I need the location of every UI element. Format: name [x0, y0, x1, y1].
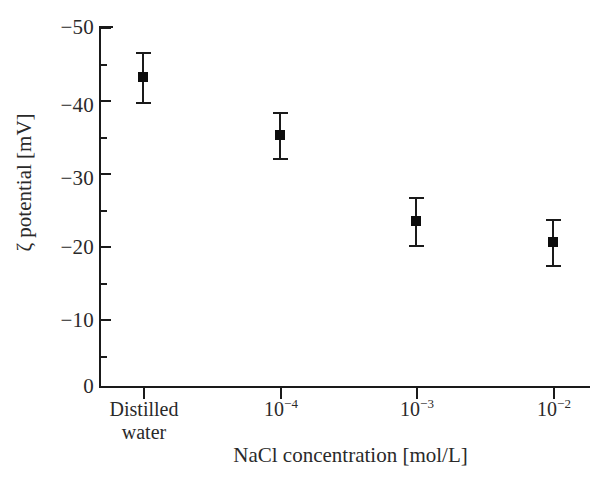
- error-bar-cap-lower: [136, 102, 151, 104]
- y-tick-label-zero: 0: [36, 376, 94, 397]
- error-bar-cap-lower: [546, 265, 561, 267]
- y-tick-major-minus30: [100, 173, 111, 175]
- x-tick-label-base: 10: [400, 398, 420, 420]
- error-bar-cap-upper: [136, 52, 151, 54]
- x-tick-label-exponent: −2: [557, 396, 571, 411]
- y-tick-major-minus40: [100, 100, 111, 102]
- data-marker: [138, 72, 148, 82]
- y-axis-line: [99, 27, 101, 388]
- y-tick-label-minus30: −30: [36, 168, 94, 189]
- y-tick-label-minus10: −10: [36, 310, 94, 331]
- y-tick-label-minus20: −20: [36, 237, 94, 258]
- y-tick-minor-minus25: [100, 210, 107, 212]
- x-axis-line: [99, 386, 590, 388]
- error-bar-cap-lower: [409, 245, 424, 247]
- y-tick-label-minus50: −50: [36, 17, 94, 38]
- y-tick-minor-minus45: [100, 64, 107, 66]
- y-tick-minor-minus5: [100, 356, 107, 358]
- x-tick-label-line2: water: [110, 421, 179, 444]
- zeta-potential-chart: −50 −40 −30 −20 −10 0 ζ potential [mV] D…: [0, 0, 601, 477]
- x-tick-label-base: 10: [264, 398, 284, 420]
- x-tick-label-1e-3: 10−3: [400, 398, 434, 421]
- x-tick-label-1e-4: 10−4: [264, 398, 298, 421]
- y-tick-major-zero: [100, 386, 111, 388]
- y-tick-minor-minus15: [100, 283, 107, 285]
- x-tick-label-distilled-water: Distilled water: [110, 398, 179, 444]
- y-axis-title: ζ potential [mV]: [12, 73, 37, 293]
- y-tick-label-minus40: −40: [36, 95, 94, 116]
- error-bar-cap-upper: [409, 197, 424, 199]
- error-bar-cap-upper: [546, 219, 561, 221]
- x-tick-label-exponent: −4: [284, 396, 298, 411]
- data-marker: [411, 216, 421, 226]
- error-bar-cap-lower: [273, 158, 288, 160]
- x-axis-title: NaCl concentration [mol/L]: [0, 443, 601, 468]
- data-marker: [548, 237, 558, 247]
- data-marker: [275, 130, 285, 140]
- x-tick-label-line1: Distilled: [110, 398, 179, 420]
- x-tick-label-1e-2: 10−2: [537, 398, 571, 421]
- y-tick-minor-minus35: [100, 137, 107, 139]
- error-bar-cap-upper: [273, 112, 288, 114]
- x-tick-label-base: 10: [537, 398, 557, 420]
- y-tick-major-minus20: [100, 246, 111, 248]
- y-tick-major-minus50: [100, 27, 111, 29]
- x-tick-label-exponent: −3: [420, 396, 434, 411]
- y-tick-major-minus10: [100, 319, 111, 321]
